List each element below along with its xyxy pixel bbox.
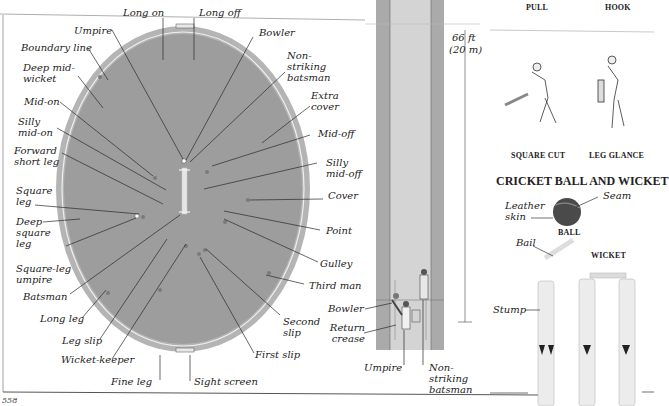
label-seam: Seam: [603, 190, 631, 201]
pitch-label-non-striking-batsman: Non-striking batsman: [429, 362, 489, 395]
label-bail: Bail: [516, 237, 536, 248]
label-silly-mid-on: Silly mid-on: [18, 116, 63, 138]
label-long-off: Long off: [199, 7, 241, 18]
equipment-title: CRICKET BALL AND WICKET: [496, 174, 669, 189]
label-non-striking-batsman: Non-striking batsman: [287, 50, 347, 83]
caption-leg-glance: LEG GLANCE: [589, 151, 644, 160]
pitch-label-return-crease: Return crease: [329, 322, 365, 344]
caption-ball: BALL: [558, 228, 581, 237]
caption-hook: HOOK: [605, 3, 631, 12]
bail: [545, 240, 573, 258]
shot-illustrations: [505, 56, 624, 128]
label-mid-off: Mid-off: [318, 128, 354, 139]
label-square-leg: Square leg: [16, 185, 54, 207]
label-deep-square-leg: Deep square leg: [16, 216, 46, 249]
label-wicket-keeper: Wicket-keeper: [61, 354, 134, 365]
label-bowler: Bowler: [259, 27, 295, 38]
label-stump: Stump: [493, 304, 526, 315]
non-striking-batsman-figure: [420, 275, 428, 299]
page-number: 558: [2, 396, 17, 405]
label-third-man: Third man: [309, 280, 362, 291]
label-square-leg-umpire: Square-leg umpire: [16, 263, 76, 285]
wicket: [538, 273, 635, 406]
label-umpire: Umpire: [74, 25, 112, 36]
umpire-figure: [402, 307, 410, 329]
label-gulley: Gulley: [320, 258, 352, 269]
label-forward-short-leg: Forward short leg: [14, 145, 64, 167]
label-point: Point: [326, 225, 352, 236]
pitch-length-m: (20 m): [449, 44, 482, 55]
sight-screen-bottom: [176, 348, 194, 352]
label-long-on: Long on: [123, 7, 164, 18]
frame-top-line: [0, 14, 365, 20]
caption-square-cut: SQUARE CUT: [511, 151, 565, 160]
field-pitch: [182, 168, 187, 214]
label-leather-skin: Leather skin: [505, 200, 541, 222]
cricket-ball: [553, 198, 581, 226]
label-mid-on: Mid-on: [24, 96, 60, 107]
label-fine-leg: Fine leg: [111, 376, 152, 387]
caption-wicket: WICKET: [591, 251, 626, 260]
label-batsman: Batsman: [23, 291, 67, 302]
cricket-field: [56, 24, 310, 352]
label-deep-mid-wicket: Deep mid-wicket: [23, 62, 85, 84]
pitch-label-bowler: Bowler: [328, 303, 364, 314]
frame-top-right-line: [490, 30, 654, 32]
label-second-slip: Second slip: [283, 316, 323, 338]
label-first-slip: First slip: [255, 349, 300, 360]
label-sight-screen: Sight screen: [194, 376, 258, 387]
sight-screen-top: [176, 24, 194, 28]
label-long-leg: Long leg: [40, 313, 84, 324]
pitch-label-umpire: Umpire: [364, 362, 402, 373]
label-leg-slip: Leg slip: [62, 335, 102, 346]
label-extra-cover: Extra cover: [311, 90, 351, 112]
pitch-length-ft: 66 ft: [452, 32, 476, 43]
label-silly-mid-off: Silly mid-off: [326, 157, 366, 179]
label-boundary-line: Boundary line: [21, 42, 92, 53]
label-cover: Cover: [328, 190, 358, 201]
caption-pull: PULL: [526, 3, 548, 12]
